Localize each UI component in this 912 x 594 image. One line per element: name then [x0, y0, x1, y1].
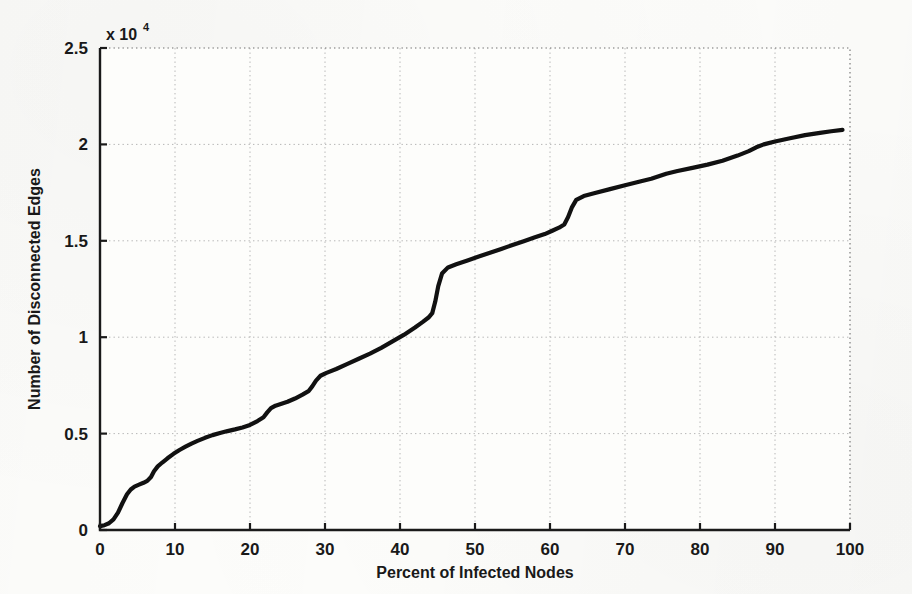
figure-page: 0102030405060708090100 00.511.522.5 x 10… [0, 0, 912, 594]
x-axis-title: Percent of Infected Nodes [376, 564, 573, 581]
line-chart: 0102030405060708090100 00.511.522.5 x 10… [0, 0, 912, 594]
x-tick-label: 90 [766, 540, 785, 559]
x-tick-label: 10 [166, 540, 185, 559]
x-tick-label: 0 [95, 540, 104, 559]
x-tick-label: 80 [691, 540, 710, 559]
y-axis-multiplier: x 10 4 [106, 21, 150, 43]
y-tick-label: 1.5 [64, 232, 88, 251]
x-tick-label: 30 [316, 540, 335, 559]
x-tick-labels: 0102030405060708090100 [95, 540, 864, 559]
y-axis-title: Number of Disconnected Edges [26, 168, 43, 410]
x-tick-label: 100 [836, 540, 864, 559]
y-tick-label: 0 [79, 521, 88, 540]
y-tick-label: 1 [79, 328, 88, 347]
y-tick-label: 2 [79, 135, 88, 154]
x-tick-label: 50 [466, 540, 485, 559]
x-tick-label: 40 [391, 540, 410, 559]
y-multiplier-exponent: 4 [143, 21, 150, 33]
x-tick-label: 20 [241, 540, 260, 559]
y-multiplier-label: x 10 [106, 26, 137, 43]
y-tick-label: 0.5 [64, 425, 88, 444]
x-tick-label: 60 [541, 540, 560, 559]
y-tick-label: 2.5 [64, 39, 88, 58]
y-tick-labels: 00.511.522.5 [64, 39, 88, 540]
x-tick-label: 70 [616, 540, 635, 559]
